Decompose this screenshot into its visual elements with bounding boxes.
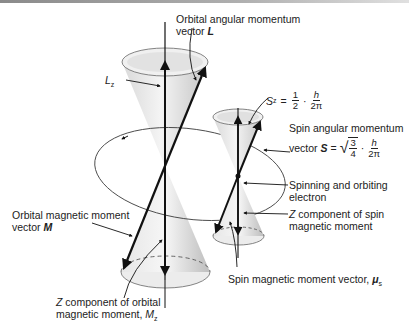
spin-leader bbox=[264, 150, 290, 152]
label-spin-magnetic-moment: Spin magnetic moment vector, μs bbox=[228, 273, 382, 290]
label-z-orbital-magnetic: Z component of orbital magnetic moment, … bbox=[56, 296, 160, 325]
label-lz: Lz bbox=[105, 74, 114, 91]
label-spinning-electron: Spinning and orbiting electron bbox=[289, 179, 388, 203]
label-sz-formula: Sz = 12 · h2π bbox=[266, 90, 323, 111]
label-z-spin-magnetic: ZZ component of spin component of spin m… bbox=[289, 208, 384, 232]
label-spin-angular-momentum: Spin angular momentum vector S = √34 · h… bbox=[289, 122, 403, 159]
label-orbital-magnetic-moment: Orbital magnetic moment vector M bbox=[12, 209, 129, 233]
electron-dot bbox=[236, 174, 241, 179]
label-orbital-angular-momentum: Orbital angular momentum vector L bbox=[176, 13, 300, 37]
electron-leader bbox=[244, 183, 288, 185]
